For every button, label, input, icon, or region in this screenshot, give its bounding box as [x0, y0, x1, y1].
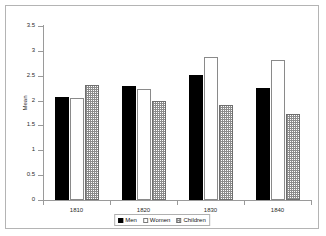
- y-axis-tick-label: 1.5: [27, 120, 35, 129]
- x-axis-tick-mark: [311, 201, 312, 205]
- x-axis-label-1840: 1840: [258, 206, 298, 215]
- y-axis-tick-label: 1: [32, 145, 35, 154]
- x-axis-tick-mark: [110, 201, 111, 205]
- chart-frame: Mean 00.511.522.533.5 1810182018301840 M…: [5, 5, 319, 229]
- legend-item-women[interactable]: Women: [143, 216, 171, 224]
- legend-label: Women: [150, 216, 171, 224]
- legend-swatch-women-icon: [143, 218, 148, 223]
- y-axis-tick-label: 3: [32, 46, 35, 55]
- y-axis-tick-label: 2.5: [27, 71, 35, 80]
- bar-men-1830: [189, 75, 203, 200]
- bar-women-1820: [137, 89, 151, 200]
- legend-item-children[interactable]: Children: [176, 216, 205, 224]
- bar-women-1810: [70, 98, 84, 200]
- y-axis-tick-label: 2: [32, 96, 35, 105]
- bar-men-1840: [256, 88, 270, 200]
- bar-women-1840: [271, 60, 285, 200]
- bar-children-1810: [85, 85, 99, 200]
- legend-swatch-men-icon: [118, 218, 123, 223]
- bar-children-1840: [286, 114, 300, 200]
- x-axis-label-1810: 1810: [57, 206, 97, 215]
- y-axis-tick-label: 3.5: [27, 21, 35, 30]
- legend-label: Men: [125, 216, 137, 224]
- x-axis-tick-mark: [177, 201, 178, 205]
- legend-swatch-children-icon: [176, 218, 181, 223]
- bar-children-1820: [152, 101, 166, 200]
- plot-area: [43, 26, 311, 200]
- bar-children-1830: [219, 105, 233, 200]
- legend-label: Children: [183, 216, 205, 224]
- bar-men-1810: [55, 97, 69, 200]
- y-axis-tick-label: 0: [32, 195, 35, 204]
- legend-item-men[interactable]: Men: [118, 216, 137, 224]
- x-axis-tick-mark: [43, 201, 44, 205]
- bar-men-1820: [122, 86, 136, 200]
- chart-legend: MenWomenChildren: [114, 214, 210, 226]
- y-axis-title: Mean: [21, 95, 29, 110]
- x-axis-tick-mark: [244, 201, 245, 205]
- bar-women-1830: [204, 57, 218, 200]
- y-axis-tick-label: 0.5: [27, 170, 35, 179]
